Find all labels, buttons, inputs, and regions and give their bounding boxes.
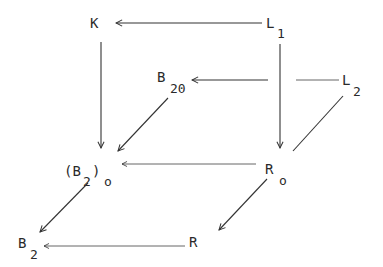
node-B2o-close: ) bbox=[92, 163, 100, 179]
node-K-label: K bbox=[90, 15, 99, 31]
node-B2o-label: (B bbox=[64, 163, 81, 179]
node-B2-subscript: 2 bbox=[30, 247, 38, 262]
node-B20-subscript: 20 bbox=[170, 81, 186, 96]
node-L2-subscript: 2 bbox=[353, 84, 361, 99]
node-L1-label: L bbox=[266, 15, 274, 31]
commutative-diagram: K L 1 B 20 L 2 (B 2 ) o R o B 2 R bbox=[0, 0, 383, 267]
edge-L2-to-Ro-line bbox=[293, 96, 343, 151]
edge-B20-to-B2o-arrow bbox=[118, 98, 168, 151]
node-B2-label: B bbox=[18, 235, 26, 251]
node-Ro-label: R bbox=[265, 161, 274, 177]
node-L2-label: L bbox=[342, 72, 350, 88]
node-Ro: R o bbox=[265, 161, 287, 188]
node-R: R bbox=[189, 234, 198, 250]
node-L1: L 1 bbox=[266, 15, 285, 41]
node-B2o: (B 2 ) o bbox=[64, 163, 112, 189]
edge-B2o-to-B2-arrow bbox=[40, 183, 88, 232]
node-B2: B 2 bbox=[18, 235, 38, 262]
node-Ro-subscript: o bbox=[279, 173, 287, 188]
node-L2: L 2 bbox=[342, 72, 361, 99]
node-B20: B 20 bbox=[157, 69, 186, 96]
node-L1-subscript: 1 bbox=[277, 26, 285, 41]
edge-Ro-to-R-arrow bbox=[219, 179, 267, 230]
node-B2o-outer-subscript: o bbox=[104, 174, 112, 189]
node-B20-label: B bbox=[157, 69, 165, 85]
node-K: K bbox=[90, 15, 99, 31]
node-R-label: R bbox=[189, 234, 198, 250]
